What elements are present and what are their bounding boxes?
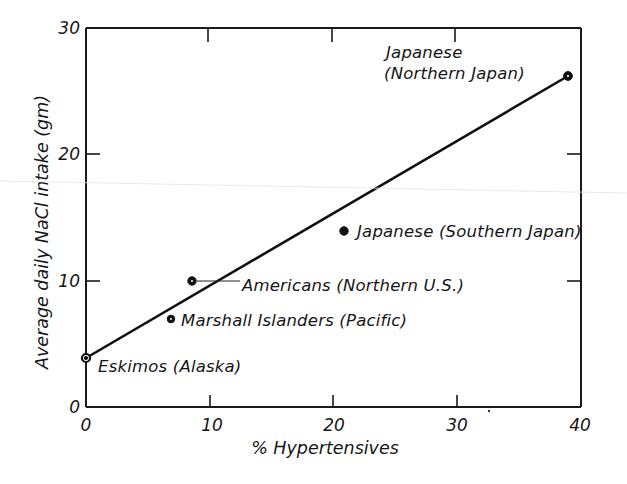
point-japanese-southern bbox=[340, 227, 348, 235]
y-axis-title: Average daily NaCl intake (gm) bbox=[32, 95, 52, 370]
y-tick-20: 20 bbox=[58, 144, 80, 164]
x-tick-40: 40 bbox=[569, 415, 591, 435]
x-tick-30: 30 bbox=[446, 415, 468, 435]
plot-frame bbox=[86, 28, 581, 407]
label-japanese-northern-2: (Northern Japan) bbox=[384, 64, 525, 83]
x-tick-10: 10 bbox=[201, 415, 223, 435]
x-tick-20: 20 bbox=[323, 415, 345, 435]
scan-artifact-line bbox=[0, 181, 627, 193]
x-tick-0: 0 bbox=[81, 415, 92, 435]
x-tick-labels: 0 10 20 30 40 bbox=[81, 415, 591, 435]
y-tick-10: 10 bbox=[58, 271, 80, 291]
chart-figure: 0 10 20 30 0 10 20 30 40 % Hypertensives… bbox=[0, 0, 627, 484]
y-tick-0: 0 bbox=[69, 397, 80, 417]
scan-speck bbox=[488, 410, 490, 412]
point-eskimos-core bbox=[84, 356, 87, 359]
label-eskimos: Eskimos (Alaska) bbox=[98, 357, 242, 376]
y-tick-labels: 0 10 20 30 bbox=[58, 18, 80, 417]
ticks bbox=[86, 28, 581, 407]
y-tick-30: 30 bbox=[58, 18, 80, 38]
label-japanese-southern: Japanese (Southern Japan) bbox=[354, 222, 582, 241]
label-marshall-islanders: Marshall Islanders (Pacific) bbox=[181, 311, 407, 330]
x-axis-title: % Hypertensives bbox=[251, 438, 399, 458]
label-americans: Americans (Northern U.S.) bbox=[241, 276, 464, 295]
label-japanese-northern-1: Japanese bbox=[383, 43, 463, 62]
